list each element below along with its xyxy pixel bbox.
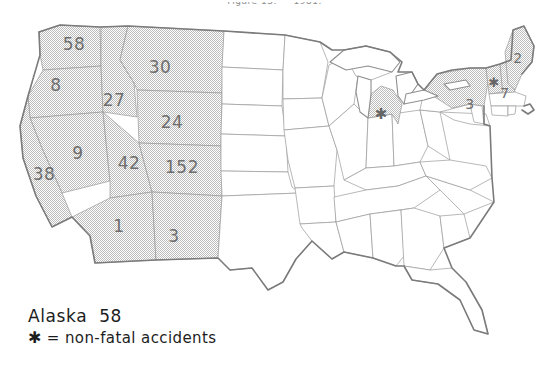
state-value-id: 27 (103, 92, 126, 109)
state-shape-ar (295, 186, 336, 224)
state-value-wy: 24 (161, 114, 184, 131)
state-value-co: 152 (165, 159, 199, 176)
state-shape-ok (221, 171, 300, 196)
legend-star-entry: ✱ = non-fatal accidents (28, 328, 216, 347)
state-shape-ri (508, 106, 516, 115)
state-shape-sd (222, 67, 283, 106)
state-value-nv: 9 (72, 145, 83, 162)
legend-alaska-entry: Alaska 58 (28, 306, 216, 326)
state-value-ca: 38 (33, 166, 56, 183)
state-value-ny: 3 (465, 97, 474, 111)
state-shape-ct (491, 106, 508, 116)
asterisk-icon: ✱ (28, 328, 42, 347)
state-shape-mn (283, 35, 328, 99)
state-value-nh: 7 (500, 86, 509, 100)
state-shape-or (28, 66, 103, 118)
cape-cod-outline (522, 104, 534, 114)
state-value-mt: 30 (149, 59, 172, 76)
state-star-vt: ✱ (489, 76, 500, 89)
legend-star-note: = non-fatal accidents (47, 329, 217, 347)
state-value-nm: 3 (168, 228, 179, 245)
state-shape-sc (440, 214, 470, 248)
state-shape-ga (401, 208, 444, 270)
state-shape-al (370, 210, 404, 266)
map-legend: Alaska 58 ✱ = non-fatal accidents (28, 306, 216, 347)
state-shape-ia (283, 98, 329, 130)
state-value-az: 1 (113, 218, 124, 235)
state-shape-mt (120, 26, 224, 93)
state-shape-nd (222, 31, 285, 70)
state-value-or: 8 (50, 77, 61, 94)
state-value-me: 2 (513, 51, 522, 65)
state-shape-ne (221, 104, 286, 136)
state-shape-nm (152, 192, 222, 260)
state-shape-ks (221, 134, 288, 172)
state-value-ut: 42 (118, 155, 141, 172)
state-star-mi: ✱ (375, 107, 388, 122)
state-value-wa: 58 (63, 36, 86, 53)
state-shape-mo (284, 126, 337, 188)
